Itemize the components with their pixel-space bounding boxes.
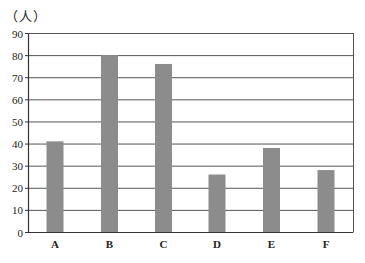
y-tick-label: 10 bbox=[12, 204, 24, 216]
bar-f bbox=[318, 170, 335, 232]
y-tick-label: 50 bbox=[12, 116, 24, 128]
y-tick-label: 0 bbox=[18, 227, 24, 239]
y-tick-label: 70 bbox=[12, 72, 24, 84]
bar-e bbox=[263, 148, 280, 232]
x-tick-label: D bbox=[213, 238, 221, 250]
x-tick-label: F bbox=[323, 238, 330, 250]
x-tick-label: E bbox=[268, 238, 275, 250]
bar-c bbox=[155, 64, 172, 232]
x-tick-label: A bbox=[51, 238, 59, 250]
y-tick-label: 90 bbox=[12, 28, 24, 40]
y-tick-label: 30 bbox=[12, 160, 24, 172]
bar-b bbox=[101, 55, 118, 232]
x-tick-label: B bbox=[106, 238, 114, 250]
y-tick-label: 80 bbox=[12, 50, 24, 62]
bar-a bbox=[47, 141, 64, 232]
bar-d bbox=[209, 175, 226, 232]
y-tick-label: 20 bbox=[12, 182, 24, 194]
y-tick-label: 60 bbox=[12, 94, 24, 106]
x-tick-label: C bbox=[160, 238, 168, 250]
y-tick-label: 40 bbox=[12, 138, 24, 150]
bar-chart: 0102030405060708090ABCDEF bbox=[0, 0, 365, 263]
